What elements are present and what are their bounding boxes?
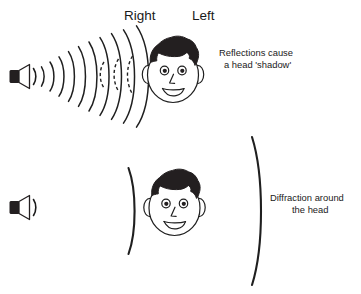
loudspeaker-icon-top — [10, 65, 36, 89]
wavefront-arc-far — [252, 137, 261, 285]
diffraction-panel: Diffraction around the head — [10, 137, 344, 285]
label-right: Right — [124, 8, 156, 23]
listener-head-bottom — [144, 169, 205, 235]
reflected-wavefront-group — [100, 56, 132, 94]
diagram-figure: Right Left Reflections cause a head 'sha… — [0, 0, 361, 294]
wavefront-arc-near — [129, 168, 135, 254]
incident-wavefront-group-top — [42, 26, 149, 127]
label-left: Left — [192, 8, 215, 23]
head-shadow-diffraction-illustration: Right Left Reflections cause a head 'sha… — [0, 0, 361, 294]
loudspeaker-icon-bottom — [10, 196, 36, 220]
caption-top-line2: a head 'shadow' — [224, 59, 291, 70]
caption-bottom-line2: the head — [292, 204, 329, 215]
reflection-panel: Right Left Reflections cause a head 'sha… — [10, 8, 293, 127]
caption-bottom-line1: Diffraction around — [270, 192, 344, 203]
listener-head-top — [142, 36, 203, 102]
caption-top-line1: Reflections cause — [219, 47, 293, 58]
